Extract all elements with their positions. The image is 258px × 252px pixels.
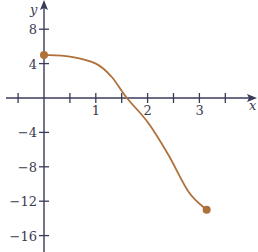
endpoints: [40, 51, 211, 214]
x-tick-label: 1: [92, 103, 100, 118]
axes: [6, 0, 257, 252]
x-tick-label: 3: [195, 103, 203, 118]
tick-labels: 12384−4−8−12−16: [10, 22, 204, 243]
chart: 12384−4−8−12−16 x y: [0, 0, 258, 252]
y-tick-label: 8: [29, 22, 37, 37]
y-axis-label: y: [29, 2, 38, 17]
y-tick-label: −12: [10, 194, 37, 209]
endpoint-dot: [203, 206, 211, 214]
y-tick-label: −4: [18, 125, 37, 140]
y-tick-label: −8: [18, 160, 37, 175]
function-curve: [44, 55, 207, 210]
x-tick-label: 2: [144, 103, 152, 118]
endpoint-dot: [40, 51, 48, 59]
y-tick-label: 4: [29, 57, 37, 72]
x-axis-label: x: [249, 98, 257, 113]
y-tick-label: −16: [10, 229, 37, 244]
